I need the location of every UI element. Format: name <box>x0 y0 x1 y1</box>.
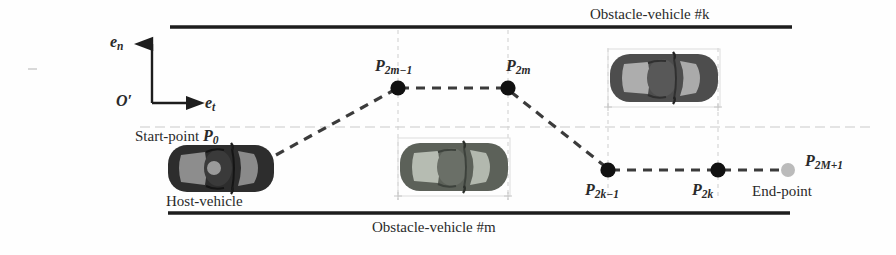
start-point-node-base: P <box>203 127 213 144</box>
host-vehicle-text: Host-vehicle <box>166 193 243 209</box>
obstacle-vehicle-k-title: Obstacle-vehicle #k <box>590 6 710 23</box>
waypoint-node-p2m-1[interactable] <box>390 80 405 95</box>
figure-canvas: en O′ et Obstacle-vehicle #k Obstacle-ve… <box>0 0 896 255</box>
p2k-base: P <box>692 181 702 198</box>
obstacle-vehicle-m-graphic <box>400 141 508 193</box>
axis-origin-text: O′ <box>116 92 132 109</box>
path-seg-p2m-p2k1 <box>511 92 606 167</box>
axis-label-en: en <box>110 33 124 52</box>
end-point-text: End-point <box>752 183 812 199</box>
p2m-subscript: 2m <box>516 64 531 76</box>
waypoint-label-p2m-plus-1: P2M+1 <box>805 152 843 171</box>
waypoint-node-end-point[interactable] <box>781 163 795 177</box>
p2m-1-subscript: 2m−1 <box>385 64 412 76</box>
obstacle-vehicle-m-title-text: Obstacle-vehicle #m <box>372 219 496 235</box>
end-point-label: End-point <box>752 183 812 200</box>
waypoint-node-p2k-1[interactable] <box>600 162 615 177</box>
waypoint-label-p2m-1: P2m−1 <box>375 57 412 76</box>
obstacle-vehicle-k-graphic <box>610 52 718 104</box>
p2k-subscript: 2k <box>702 188 714 200</box>
waypoint-node-p2k[interactable] <box>710 162 725 177</box>
p2mplus1-subscript: 2M+1 <box>815 159 843 171</box>
p2k-1-subscript: 2k−1 <box>595 188 619 200</box>
p2k-1-base: P <box>585 181 595 198</box>
waypoint-label-p2m: P2m <box>506 57 530 76</box>
host-vehicle-label: Host-vehicle <box>166 193 243 210</box>
p2m-1-base: P <box>375 57 385 74</box>
path-seg-p0-p2m1 <box>276 89 396 155</box>
p2m-base: P <box>506 57 516 74</box>
axis-origin-label: O′ <box>116 92 132 110</box>
start-point-label: Start-point P0 <box>135 127 218 146</box>
p2mplus1-base: P <box>805 152 815 169</box>
waypoint-path <box>276 88 786 170</box>
axis-en-subscript: n <box>117 40 123 52</box>
obstacle-vehicle-m-title: Obstacle-vehicle #m <box>372 219 496 236</box>
start-point-node-subscript: 0 <box>213 134 219 146</box>
obstacle-vehicle-k-title-text: Obstacle-vehicle #k <box>590 6 710 22</box>
waypoint-label-p2k: P2k <box>692 181 713 200</box>
host-vehicle-graphic <box>168 143 274 194</box>
coordinate-frame <box>152 44 200 103</box>
axis-label-et: et <box>205 94 215 113</box>
waypoint-label-p2k-1: P2k−1 <box>585 181 619 200</box>
axis-et-subscript: t <box>212 101 215 113</box>
start-point-text: Start-point <box>135 128 199 144</box>
waypoint-node-p2m[interactable] <box>500 80 515 95</box>
